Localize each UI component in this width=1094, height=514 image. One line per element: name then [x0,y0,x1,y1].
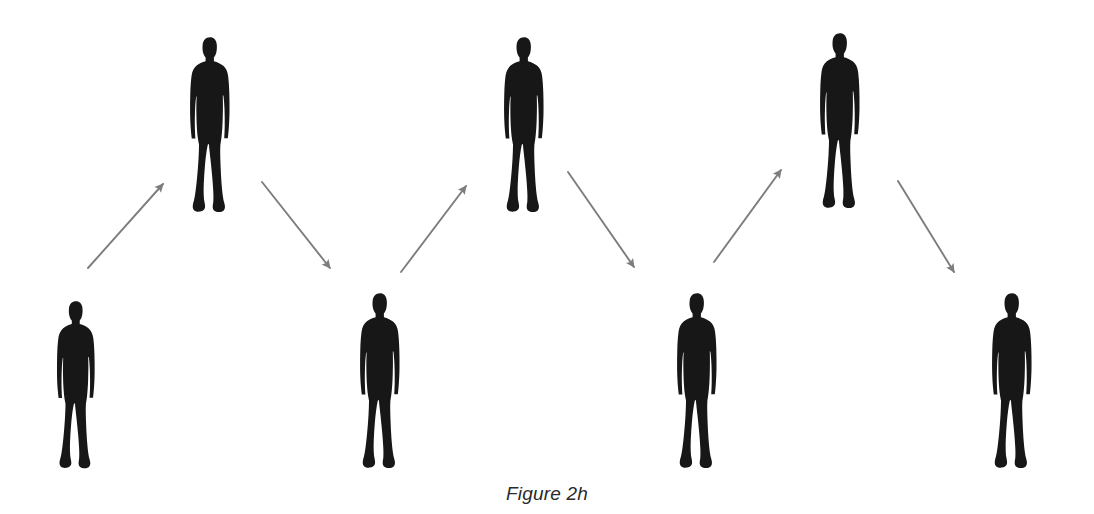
figure-background [0,0,1094,514]
figure-canvas [0,0,1094,514]
figure-container: Figure 2h [0,0,1094,514]
figure-caption: Figure 2h [0,481,1094,507]
